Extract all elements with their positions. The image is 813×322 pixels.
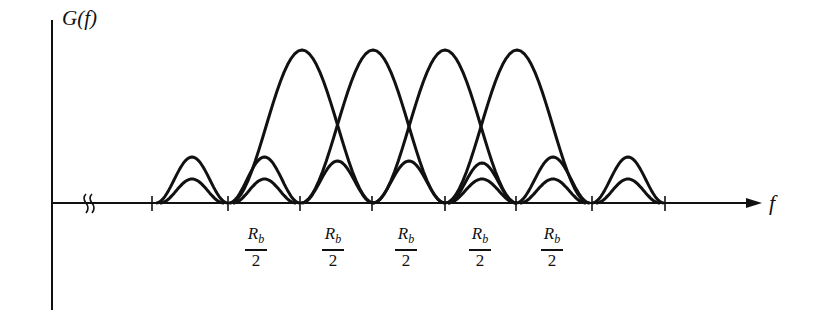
tick-label-4: Rb 2 (465, 225, 495, 270)
tick-label-5: Rb 2 (537, 225, 567, 270)
spectral-lobes (156, 50, 664, 203)
x-axis-arrow-icon (746, 198, 762, 208)
tick-label-3: Rb 2 (391, 225, 421, 270)
x-axis-label: f (769, 190, 775, 216)
y-axis-label: G(f) (62, 6, 97, 31)
spectrum-diagram (0, 0, 813, 322)
tick-label-1: Rb 2 (241, 225, 271, 270)
tick-label-2: Rb 2 (318, 225, 348, 270)
